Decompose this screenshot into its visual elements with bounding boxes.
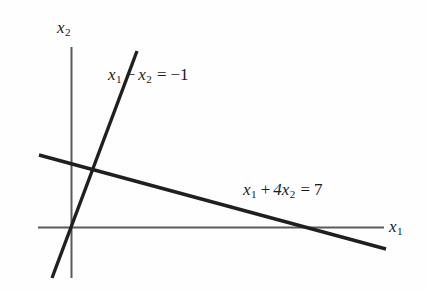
eq1-term1: x: [108, 65, 116, 84]
eq1-rhs: −1: [171, 65, 189, 84]
x1-axis-label-var: x: [389, 217, 397, 236]
eq2-term2: 4x: [273, 180, 289, 199]
x2-axis-label-var: x: [57, 18, 65, 37]
eq2-rhs: 7: [314, 180, 323, 199]
eq2-term1: x: [243, 180, 251, 199]
line-steep-x1-minus-x2: [52, 51, 137, 278]
equation-label-shallow-line: x1+4x2=7: [243, 181, 323, 198]
x2-axis-label: x2: [57, 19, 71, 36]
eq2-equals: =: [300, 180, 310, 199]
eq1-term2: x: [138, 65, 146, 84]
eq1-term1-sub: 1: [116, 73, 122, 85]
plot-canvas: [0, 0, 427, 291]
eq2-term1-sub: 1: [251, 188, 257, 200]
equation-label-steep-line: x1−x2=−1: [108, 66, 189, 83]
line-shallow-x1-plus-4x2: [39, 155, 386, 249]
eq1-equals: =: [157, 65, 167, 84]
eq2-operator: +: [261, 180, 271, 199]
line-diagram-figure: x1−x2=−1 x1+4x2=7 x2 x1: [0, 0, 427, 291]
x1-axis-label: x1: [389, 218, 403, 235]
x1-axis-label-sub: 1: [397, 225, 403, 237]
x2-axis-label-sub: 2: [65, 26, 71, 38]
eq2-term2-sub: 2: [290, 188, 296, 200]
eq1-operator: −: [126, 65, 136, 84]
eq1-term2-sub: 2: [146, 73, 152, 85]
